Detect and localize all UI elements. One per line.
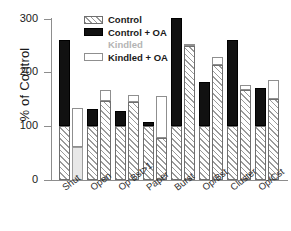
legend-swatch-control-oa-icon xyxy=(84,28,103,36)
segment-control xyxy=(59,126,70,180)
segment-kindled-oa xyxy=(100,90,111,101)
segment-control xyxy=(87,126,98,180)
y-axis-title: % of Control xyxy=(17,15,32,155)
segment-control-oa xyxy=(115,111,126,127)
segment-control xyxy=(227,126,238,180)
y-tick-200 xyxy=(44,72,51,73)
segment-kindled-oa xyxy=(128,95,139,102)
legend-label-control: Control xyxy=(108,14,142,25)
y-tick-300 xyxy=(44,19,51,20)
y-tick-label-200: 200 xyxy=(4,66,38,77)
legend-swatch-kindled-icon xyxy=(84,41,103,49)
legend-item-control: Control xyxy=(84,14,168,25)
y-tick-0 xyxy=(44,180,51,181)
segment-control xyxy=(199,126,210,180)
segment-control-oa xyxy=(171,18,182,126)
segment-control-oa xyxy=(227,40,238,126)
legend-swatch-control-icon xyxy=(84,16,103,24)
segment-kindled xyxy=(184,46,195,180)
bar-chart-figure: % of Control 300 200 100 0 Control Contr… xyxy=(0,0,291,231)
legend-label-kindled: Kindled xyxy=(108,39,143,50)
y-tick-label-0: 0 xyxy=(4,174,38,185)
legend-item-control-oa: Control + OA xyxy=(84,27,168,38)
y-tick-100 xyxy=(44,126,51,127)
legend-item-kindled: Kindled xyxy=(84,39,168,50)
segment-kindled xyxy=(100,101,111,180)
legend-label-kindled-oa: Kindled + OA xyxy=(108,52,168,63)
legend-label-control-oa: Control + OA xyxy=(108,27,167,38)
chart-legend: Control Control + OA Kindled Kindled + O… xyxy=(84,14,168,64)
segment-kindled-oa xyxy=(156,96,167,138)
segment-control-oa xyxy=(87,109,98,127)
segment-control-oa xyxy=(143,122,154,126)
segment-kindled-oa xyxy=(212,57,223,65)
segment-control xyxy=(171,126,182,180)
segment-kindled-oa xyxy=(268,80,279,99)
legend-swatch-kindled-oa-icon xyxy=(84,53,103,61)
y-tick-label-100: 100 xyxy=(4,120,38,131)
segment-kindled-oa xyxy=(184,44,195,46)
segment-control-oa xyxy=(199,82,210,127)
segment-control-oa xyxy=(59,40,70,126)
legend-item-kindled-oa: Kindled + OA xyxy=(84,52,168,63)
y-tick-label-300: 300 xyxy=(4,13,38,24)
segment-control xyxy=(115,126,126,180)
segment-kindled-oa xyxy=(72,108,83,147)
segment-kindled xyxy=(212,65,223,180)
segment-kindled-oa xyxy=(240,85,251,90)
segment-control-oa xyxy=(255,88,266,127)
